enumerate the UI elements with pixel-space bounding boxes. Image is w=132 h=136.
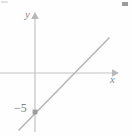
- y-intercept-value-label: −5: [14, 102, 27, 114]
- linear-function-graph: y x −5: [0, 0, 132, 136]
- y-axis-label: y: [25, 9, 30, 20]
- scan-artifact-top-left: [1, 1, 8, 3]
- y-intercept-point-marker: [33, 110, 38, 115]
- y-axis-arrow-icon: [31, 12, 39, 19]
- linear-graph-line: [19, 38, 109, 130]
- coordinate-plane-svg: [0, 0, 132, 136]
- x-axis-label: x: [110, 74, 115, 85]
- scan-artifact-top-right: [122, 2, 128, 6]
